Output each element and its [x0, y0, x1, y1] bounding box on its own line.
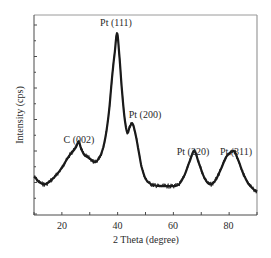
annotation-pt200: Pt (200) [129, 109, 162, 121]
x-tick-label-40: 40 [113, 220, 123, 231]
y-axis-title: Intensity (cps) [14, 86, 26, 144]
x-tick-label-20: 20 [57, 220, 67, 231]
x-axis-title: 2 Theta (degree) [113, 234, 179, 246]
annotation-pt111: Pt (111) [100, 17, 132, 29]
x-tick-label-60: 60 [168, 220, 178, 231]
annotation-c002: C (002) [64, 134, 95, 146]
annotation-pt220: Pt (220) [177, 146, 210, 158]
xrd-chart: 20 40 60 80 2 Theta (degree) Intensity (… [0, 0, 271, 258]
annotation-pt311: Pt (311) [220, 146, 252, 158]
x-tick-label-80: 80 [224, 220, 234, 231]
